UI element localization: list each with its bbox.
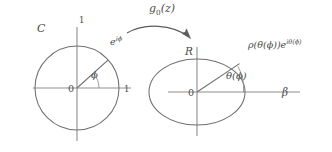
- conformal-map-figure: g0(z) C 1 1 0 ϕ eiϕ R 0 θ(ϕ) β ρ(θ(ϕ))ei…: [0, 0, 332, 152]
- map-arrow-head: [182, 29, 190, 39]
- image-boundary-point-radial: ρ(θ(ϕ)): [248, 39, 281, 50]
- map-arrow-label-argument: (z): [161, 2, 175, 15]
- image-boundary-point-label: ρ(θ(ϕ))eiθ(ϕ): [248, 39, 302, 50]
- domain-boundary-point-label: eiϕ: [110, 36, 122, 47]
- domain-angle-label: ϕ: [91, 70, 98, 80]
- domain-axis-top-label: 1: [79, 16, 84, 25]
- map-arrow-label: g0(z): [149, 3, 175, 16]
- image-origin-label: 0: [188, 88, 194, 98]
- map-arrow-label-function: g: [149, 2, 156, 15]
- region-label-r: R: [185, 46, 193, 57]
- diagram-canvas: [0, 0, 332, 152]
- map-arrow-group: [127, 26, 191, 38]
- map-arrow-curve: [127, 26, 189, 36]
- curve-label-c: C: [37, 23, 45, 34]
- image-panel-group: [149, 47, 300, 136]
- image-boundary-point-exponent: iθ(ϕ): [286, 38, 301, 46]
- domain-boundary-point-exponent: iϕ: [116, 35, 122, 43]
- domain-origin-label: 0: [68, 84, 74, 94]
- domain-axis-right-label: 1: [124, 85, 129, 94]
- image-angle-label: θ(ϕ): [226, 71, 247, 81]
- beta-label: β: [282, 87, 288, 98]
